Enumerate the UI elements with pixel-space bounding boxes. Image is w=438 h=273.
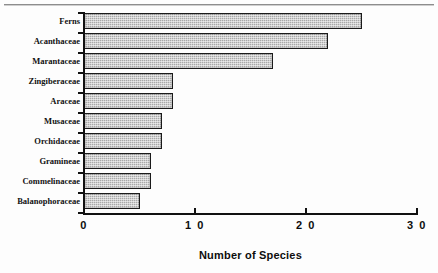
bar xyxy=(84,73,173,89)
category-label: Marantaceae xyxy=(0,57,80,66)
x-axis-tick xyxy=(83,208,85,214)
y-axis-tick xyxy=(78,32,84,34)
bar xyxy=(84,93,173,109)
bar xyxy=(84,153,151,169)
x-axis-tick-label: 0 xyxy=(80,219,88,231)
category-label: Zingiberaceae xyxy=(0,77,80,86)
x-axis-tick-label: 3 0 xyxy=(407,219,427,231)
category-label: Gramineae xyxy=(0,157,80,166)
category-label: Balanophoraceae xyxy=(0,197,80,206)
x-axis-title: Number of Species xyxy=(84,249,417,261)
x-axis-tick-label: 1 0 xyxy=(185,219,205,231)
bar xyxy=(84,53,273,69)
bar xyxy=(84,33,328,49)
x-axis-tick xyxy=(194,208,196,214)
bar xyxy=(84,173,151,189)
category-label: Ferns xyxy=(0,17,80,26)
bar xyxy=(84,133,162,149)
category-label: Orchidaceae xyxy=(0,137,80,146)
plot-area: FernsAcanthaceaeMarantaceaeZingiberaceae… xyxy=(0,0,438,273)
y-axis-tick xyxy=(78,52,84,54)
x-axis-tick xyxy=(305,208,307,214)
x-axis-line xyxy=(83,213,418,215)
y-axis-tick xyxy=(78,172,84,174)
x-axis-tick xyxy=(416,208,418,214)
y-axis-tick xyxy=(78,92,84,94)
bar-series xyxy=(84,13,417,213)
x-axis-tick-label: 2 0 xyxy=(296,219,316,231)
category-label: Musaceae xyxy=(0,117,80,126)
category-label: Commelinaceae xyxy=(0,177,80,186)
bar xyxy=(84,13,362,29)
y-axis-tick xyxy=(78,12,84,14)
y-axis-tick xyxy=(78,72,84,74)
y-axis-tick xyxy=(78,132,84,134)
category-axis-labels: FernsAcanthaceaeMarantaceaeZingiberaceae… xyxy=(0,13,80,213)
category-label: Acanthaceae xyxy=(0,37,80,46)
y-axis-tick xyxy=(78,152,84,154)
y-axis-tick xyxy=(78,192,84,194)
bar xyxy=(84,113,162,129)
y-axis-tick xyxy=(78,112,84,114)
bar-chart-figure: FernsAcanthaceaeMarantaceaeZingiberaceae… xyxy=(0,0,438,273)
category-label: Araceae xyxy=(0,97,80,106)
bar xyxy=(84,193,140,209)
